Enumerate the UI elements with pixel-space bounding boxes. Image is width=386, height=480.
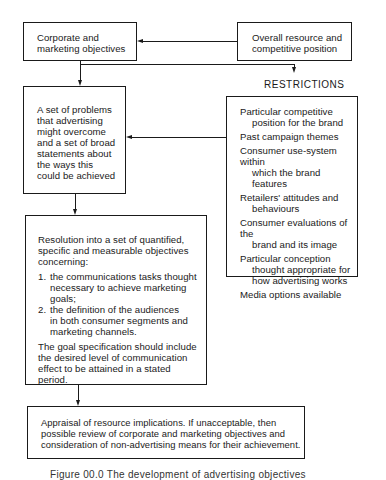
node-text-line: The goal specification should include xyxy=(38,341,206,352)
connector-corporate-to-restrictions xyxy=(80,64,295,65)
node-text-line: A set of problems xyxy=(37,104,125,115)
restriction-item: Consumer use-system within which the bra… xyxy=(240,145,357,189)
node-text-line: competitive position xyxy=(252,43,351,54)
node-text-line: Overall resource and xyxy=(252,32,351,43)
resolution-list-item: 2. the definition of the audiences in bo… xyxy=(38,304,206,337)
node-text-line: specific and measurable objectives xyxy=(38,245,206,256)
restriction-text: Media options available xyxy=(240,289,357,300)
node-text-line: Appraisal of resource implications. If u… xyxy=(41,417,304,428)
node-restrictions: Particular competitive position for the … xyxy=(226,96,358,277)
node-text-line: statements about xyxy=(37,148,125,159)
arrowhead-left-icon xyxy=(126,135,132,139)
node-text-line: possible review of corporate and marketi… xyxy=(41,428,304,439)
restriction-item: Consumer evaluations of the brand and it… xyxy=(240,217,357,250)
arrowhead-left-icon xyxy=(137,39,143,43)
node-text-line: could be achieved xyxy=(37,170,125,181)
node-appraisal: Appraisal of resource implications. If u… xyxy=(27,406,305,459)
restriction-item: Past campaign themes xyxy=(240,131,357,142)
node-text-line: Resolution into a set of quantified, xyxy=(38,234,206,245)
node-text-line: effect to be attained in a stated xyxy=(38,363,206,374)
restriction-text-cont: thought appropriate for xyxy=(240,264,357,275)
restriction-text-cont: position for the brand xyxy=(240,117,357,128)
restriction-item: Particular competitive position for the … xyxy=(240,106,357,128)
node-resolution: Resolution into a set of quantified, spe… xyxy=(25,215,207,385)
node-text-line: might overcome xyxy=(37,126,125,137)
restriction-item: Retailers' attitudes and behaviours xyxy=(240,192,357,214)
node-text-line: marketing channels. xyxy=(50,326,206,337)
node-corporate-objectives: Corporate and marketing objectives xyxy=(23,22,137,61)
restriction-text-cont: brand and its image xyxy=(240,239,357,250)
restriction-item: Media options available xyxy=(240,289,357,300)
node-text-line: Corporate and xyxy=(37,32,136,43)
node-text-line: period. xyxy=(38,374,206,385)
node-text-line: goals; xyxy=(50,293,206,304)
node-text-line: the definition of the audiences xyxy=(50,304,206,315)
node-text-line: and a set of broad xyxy=(37,137,125,148)
node-text-line: that advertising xyxy=(37,115,125,126)
connector-restrictions-to-problems xyxy=(131,137,226,138)
figure-caption: Figure 00.0 The development of advertisi… xyxy=(50,469,306,480)
node-text-line: necessary to achieve marketing xyxy=(50,282,206,293)
node-text-line: concerning: xyxy=(38,256,206,267)
restriction-text: Particular competitive xyxy=(240,106,357,117)
restriction-text-cont: behaviours xyxy=(240,203,357,214)
restriction-text-cont: how advertising works xyxy=(240,275,357,286)
resolution-outro: The goal specification should include th… xyxy=(38,341,206,385)
resolution-intro: Resolution into a set of quantified, spe… xyxy=(38,234,206,267)
restriction-text: Retailers' attitudes and xyxy=(240,192,357,203)
node-text-line: the desired level of communication xyxy=(38,352,206,363)
restriction-text: Consumer use-system within xyxy=(240,145,357,167)
restriction-item: Particular conception thought appropriat… xyxy=(240,253,357,286)
restriction-text-cont: which the brand features xyxy=(240,167,357,189)
node-problems: A set of problems that advertising might… xyxy=(23,86,126,194)
connector-resolution-to-appraisal xyxy=(78,385,79,400)
node-text-line: consideration of non-advertising means f… xyxy=(41,439,304,450)
list-number: 1. xyxy=(38,271,46,282)
connector-overall-to-corporate xyxy=(142,41,237,42)
node-text-line: marketing objectives xyxy=(37,43,136,54)
restrictions-label: RESTRICTIONS xyxy=(264,79,344,90)
resolution-list: 1. the communications tasks thought nece… xyxy=(38,271,206,337)
node-text-line: the communications tasks thought xyxy=(50,271,206,282)
restriction-text: Particular conception xyxy=(240,253,357,264)
connector-problems-to-resolution xyxy=(75,194,76,209)
node-overall-resource: Overall resource and competitive positio… xyxy=(237,22,352,61)
list-number: 2. xyxy=(38,304,46,315)
resolution-list-item: 1. the communications tasks thought nece… xyxy=(38,271,206,304)
restriction-text: Consumer evaluations of the xyxy=(240,217,357,239)
restriction-text: Past campaign themes xyxy=(240,131,357,142)
node-text-line: the ways this xyxy=(37,159,125,170)
arrowhead-down-icon xyxy=(292,67,296,73)
node-text-line: in both consumer segments and xyxy=(50,315,206,326)
